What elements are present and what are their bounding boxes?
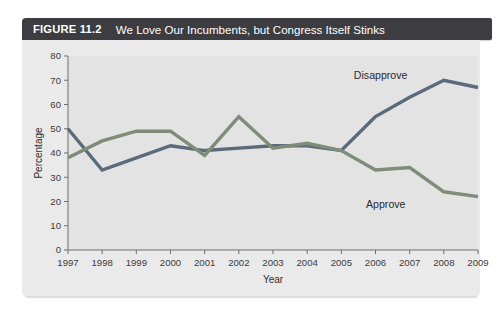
y-tick-label: 10 xyxy=(50,220,61,231)
x-tick-label: 2004 xyxy=(296,257,318,268)
series-line-approve xyxy=(68,117,478,197)
x-tick-label: 2002 xyxy=(228,257,249,268)
chart-axes xyxy=(64,56,478,254)
y-tick-labels: 01020304050607080 xyxy=(50,50,61,255)
x-tick-labels: 1997199819992000200120022003200420052006… xyxy=(57,257,488,268)
x-tick-label: 2007 xyxy=(399,257,420,268)
y-tick-label: 70 xyxy=(50,75,61,86)
x-axis-title: Year xyxy=(263,274,284,285)
y-tick-label: 80 xyxy=(50,50,61,61)
y-tick-label: 60 xyxy=(50,99,61,110)
y-axis-title: Percentage xyxy=(33,127,44,179)
y-tick-label: 40 xyxy=(50,147,61,158)
series-line-disapprove xyxy=(68,80,478,170)
series-annotation-disapprove: Disapprove xyxy=(354,69,408,81)
y-tick-label: 20 xyxy=(50,196,61,207)
x-tick-label: 2006 xyxy=(365,257,386,268)
chart-plot-wrapper: 01020304050607080 1997199819992000200120… xyxy=(0,0,504,316)
x-tick-label: 2008 xyxy=(433,257,454,268)
x-tick-label: 1999 xyxy=(126,257,147,268)
chart-series-annotations: DisapproveApprove xyxy=(354,69,408,210)
series-annotation-approve: Approve xyxy=(366,198,406,210)
x-tick-label: 2003 xyxy=(262,257,283,268)
x-tick-label: 2005 xyxy=(331,257,352,268)
x-tick-label: 1998 xyxy=(91,257,112,268)
y-tick-label: 30 xyxy=(50,172,61,183)
x-tick-label: 2001 xyxy=(194,257,215,268)
y-tick-label: 50 xyxy=(50,123,61,134)
line-chart: 01020304050607080 1997199819992000200120… xyxy=(0,0,504,316)
chart-series-lines xyxy=(68,80,478,196)
x-tick-label: 2000 xyxy=(160,257,181,268)
figure-container: FIGURE 11.2 We Love Our Incumbents, but … xyxy=(0,0,504,316)
y-tick-label: 0 xyxy=(56,244,61,255)
x-tick-label: 2009 xyxy=(467,257,488,268)
x-tick-label: 1997 xyxy=(57,257,78,268)
